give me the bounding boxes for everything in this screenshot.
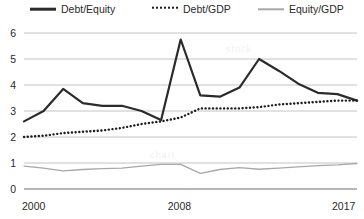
legend-item-debt-equity: Debt/Equity — [30, 4, 115, 15]
y-tick-label: 5 — [2, 54, 16, 65]
data-series-layer — [24, 40, 357, 174]
legend-item-equity-gdp: Equity/GDP — [258, 4, 344, 15]
legend-swatch-debt-equity — [30, 4, 56, 14]
legend-swatch-debt-gdp — [152, 4, 178, 14]
plot-area: 0123456 — [0, 24, 364, 196]
legend-label-equity-gdp: Equity/GDP — [289, 4, 344, 15]
legend-label-debt-gdp: Debt/GDP — [183, 4, 231, 15]
legend-label-debt-equity: Debt/Equity — [61, 4, 115, 15]
x-tick-label: 2008 — [168, 201, 191, 212]
x-tick-label: 2000 — [22, 201, 45, 212]
plot-svg — [0, 24, 364, 196]
chart-legend: Debt/Equity Debt/GDP Equity/GDP — [0, 0, 364, 24]
chart-container: Debt/Equity Debt/GDP Equity/GDP 0123456 … — [0, 0, 364, 219]
x-axis-tick-labels: 200020082017 — [0, 201, 364, 217]
legend-item-debt-gdp: Debt/GDP — [152, 4, 231, 15]
y-tick-label: 6 — [2, 28, 16, 39]
series-line — [24, 40, 357, 122]
y-tick-label: 0 — [2, 184, 16, 195]
series-line — [24, 101, 357, 137]
x-tick-label: 2017 — [332, 201, 355, 212]
legend-swatch-equity-gdp — [258, 4, 284, 14]
y-tick-label: 2 — [2, 132, 16, 143]
y-tick-label: 3 — [2, 106, 16, 117]
gridlines — [24, 33, 357, 189]
series-line — [24, 164, 357, 174]
y-tick-label: 4 — [2, 80, 16, 91]
y-tick-label: 1 — [2, 158, 16, 169]
